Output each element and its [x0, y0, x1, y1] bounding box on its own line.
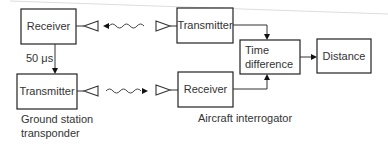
arrow-left-icon: [103, 23, 109, 29]
time-difference-label-line2: difference: [245, 58, 293, 70]
ground-receiver-label: Receiver: [27, 20, 71, 32]
arrow-right-icon: [311, 54, 317, 60]
aircraft-transmitter-label: Transmitter: [177, 19, 233, 31]
arrow-down-icon: [52, 68, 58, 74]
arrow-up-icon: [264, 74, 270, 80]
aircraft-transmitter-block: Transmitter: [177, 8, 233, 43]
time-difference-block: Time difference: [240, 40, 300, 74]
delay-label: 50 μs: [26, 52, 54, 64]
radio-wave-icon: [109, 24, 144, 28]
radio-wave-icon: [106, 89, 141, 93]
aircraft-interrogator-caption: Aircraft interrogator: [198, 112, 292, 124]
dme-block-diagram: Receiver Transmitter Time difference Dis…: [0, 0, 388, 149]
antenna-icon: [84, 21, 98, 31]
ground-transmitter-block: Transmitter: [17, 74, 77, 109]
ground-receiver-block: Receiver: [21, 9, 76, 44]
ground-station-caption-line1: Ground station: [21, 113, 93, 125]
antenna-icon: [84, 86, 98, 96]
distance-label: Distance: [323, 50, 366, 62]
connector-line: [233, 79, 267, 89]
arrow-right-icon: [142, 88, 148, 94]
arrow-down-icon: [264, 34, 270, 40]
time-difference-label-line1: Time: [245, 44, 269, 56]
ground-station-caption-line2: transponder: [21, 127, 80, 139]
aircraft-receiver-block: Receiver: [178, 72, 233, 107]
connector-line: [233, 25, 267, 36]
aircraft-receiver-label: Receiver: [184, 83, 228, 95]
distance-block: Distance: [317, 39, 371, 73]
antenna-icon: [156, 21, 170, 31]
antenna-icon: [156, 85, 170, 95]
ground-transmitter-label: Transmitter: [19, 85, 75, 97]
